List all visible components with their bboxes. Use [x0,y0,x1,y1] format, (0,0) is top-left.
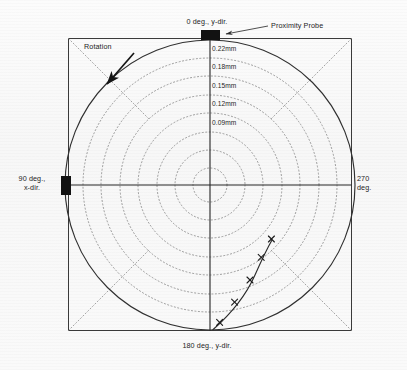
polar-plot-canvas [0,0,407,370]
axis-label-270-deg-line1: 270 [357,174,403,183]
radial-tick-label-4: 0.12mm [212,100,236,108]
proximity-probe-label: Proximity Probe [271,21,323,30]
shaft-centerline-locus-curve [213,240,272,330]
axis-label-90-deg-line1: 90 deg., [9,174,55,183]
radial-tick-label-2: 0.18mm [212,63,236,71]
radial-tick-label-3: 0.15mm [212,82,236,90]
proximity-probe-x-block [61,176,71,195]
proximity-probe-leader-line [226,26,268,34]
axis-label-270-deg: 270 deg. [357,174,403,192]
radial-tick-label-1: 0.22mm [212,45,236,53]
radial-tick-label-5: 0.09mm [212,119,236,127]
axis-label-0-deg: 0 deg., y-dir. [167,17,247,26]
axis-label-90-deg-line2: x-dir. [9,183,55,192]
rotation-label: Rotation [84,42,112,51]
axis-label-90-deg: 90 deg., x-dir. [9,174,55,192]
axis-label-270-deg-line2: deg. [357,183,403,192]
shaft-centerline-locus-markers [217,236,275,325]
locus-point-2 [232,299,238,305]
proximity-probe-y-block [201,30,220,40]
rotation-arrow [107,53,134,84]
polar-orbit-figure: 0 deg., y-dir. Proximity Probe Rotation … [0,0,407,370]
axis-label-180-deg: 180 deg., y-dir. [160,341,254,350]
